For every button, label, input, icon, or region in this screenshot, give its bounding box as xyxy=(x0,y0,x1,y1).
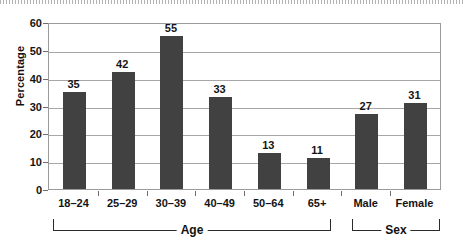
bar[interactable] xyxy=(160,36,183,189)
bar[interactable] xyxy=(112,72,135,189)
x-tick-mark xyxy=(195,191,196,196)
bar-value-label: 11 xyxy=(297,145,337,156)
bar[interactable] xyxy=(209,97,232,189)
bar[interactable] xyxy=(355,114,378,189)
bar-value-label: 33 xyxy=(200,84,240,95)
bar-value-label: 42 xyxy=(102,59,142,70)
bar-value-label: 35 xyxy=(54,79,94,90)
x-tick-label: 30–39 xyxy=(143,197,199,209)
x-tick-label: 50–64 xyxy=(240,197,296,209)
x-tick-label: Male xyxy=(338,197,394,209)
y-tick-label: 50 xyxy=(16,46,42,57)
x-tick-label: 40–49 xyxy=(192,197,248,209)
group-label-age: Age xyxy=(177,224,208,237)
x-tick-mark xyxy=(98,191,99,196)
y-tick-label: 60 xyxy=(16,18,42,29)
x-tick-mark xyxy=(341,191,342,196)
gridline xyxy=(49,80,440,81)
y-tick-label: 20 xyxy=(16,129,42,140)
x-tick-label: 25–29 xyxy=(94,197,150,209)
group-label-sex: Sex xyxy=(381,224,410,237)
bar-chart: Percentage 6050403020100 354255331311273… xyxy=(0,0,463,248)
gridline xyxy=(49,52,440,53)
bar-value-label: 55 xyxy=(151,23,191,34)
x-tick-label: 18–24 xyxy=(46,197,102,209)
bar[interactable] xyxy=(404,103,427,189)
gridline xyxy=(49,135,440,136)
bar[interactable] xyxy=(258,153,281,189)
bar-value-label: 13 xyxy=(248,140,288,151)
y-tick-mark xyxy=(43,190,48,191)
bar[interactable] xyxy=(307,158,330,189)
bar-value-label: 27 xyxy=(346,101,386,112)
gridline xyxy=(49,163,440,164)
y-tick-label: 10 xyxy=(16,157,42,168)
y-tick-label: 0 xyxy=(16,185,42,196)
y-tick-label: 40 xyxy=(16,74,42,85)
group-bracket-sex: Sex xyxy=(352,219,440,231)
bar-value-label: 31 xyxy=(394,90,434,101)
x-tick-mark xyxy=(147,191,148,196)
x-tick-mark xyxy=(390,191,391,196)
x-tick-mark xyxy=(244,191,245,196)
y-tick-label: 30 xyxy=(16,102,42,113)
group-bracket-age: Age xyxy=(53,219,331,231)
bar[interactable] xyxy=(63,92,86,189)
x-tick-label: 65+ xyxy=(289,197,345,209)
x-tick-mark xyxy=(293,191,294,196)
x-tick-label: Female xyxy=(386,197,442,209)
